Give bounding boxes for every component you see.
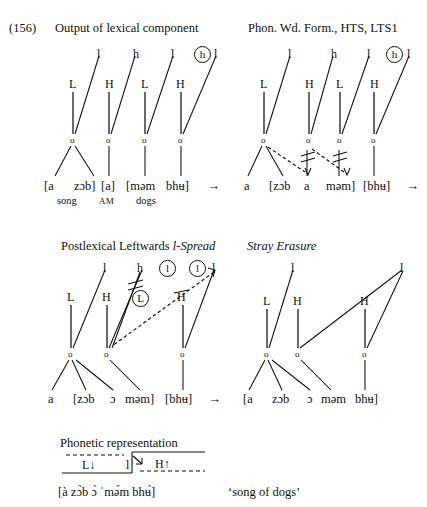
contour-mid-label: l — [126, 459, 129, 471]
phonetic-translation: ‘song of dogs’ — [228, 486, 300, 499]
phonetic-ipa: [à zɔ̀b ɔ̀ ˈmə́m bhʉ́] — [58, 486, 155, 499]
contour-low-label: L↓ — [82, 459, 95, 471]
contour-high-label: H↑ — [155, 458, 170, 470]
pitch-contour — [0, 0, 427, 507]
